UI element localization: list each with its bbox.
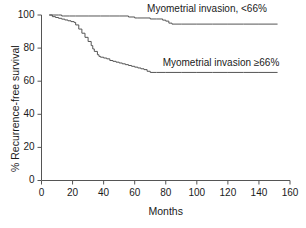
y-tick-label: 60 bbox=[23, 76, 34, 86]
x-tick-label: 20 bbox=[67, 188, 78, 198]
axis-lines bbox=[38, 15, 291, 185]
survival-curve-low-invasion bbox=[49, 15, 277, 24]
x-tick-label: 40 bbox=[98, 188, 109, 198]
y-tick-label: 80 bbox=[23, 43, 34, 53]
upper-curve-label: Myometrial invasion, <66% bbox=[147, 4, 267, 14]
y-tick-label: 40 bbox=[23, 109, 34, 119]
y-axis-ticks bbox=[38, 15, 42, 181]
y-tick-label: 0 bbox=[29, 175, 35, 185]
x-tick-label: 120 bbox=[220, 188, 237, 198]
kaplan-meier-figure: 020406080100 020406080100120140160 % Rec… bbox=[0, 0, 306, 228]
x-tick-label: 140 bbox=[251, 188, 268, 198]
y-tick-label: 20 bbox=[23, 142, 34, 152]
x-tick-label: 160 bbox=[282, 188, 299, 198]
y-tick-label: 100 bbox=[18, 10, 35, 20]
y-axis-title: % Recurrence-free survival bbox=[10, 45, 21, 172]
x-axis-title: Months bbox=[149, 206, 183, 217]
x-axis-ticks bbox=[42, 181, 291, 185]
lower-curve-label: Myometrial invasion ≥66% bbox=[163, 58, 280, 68]
x-tick-label: 100 bbox=[188, 188, 205, 198]
x-tick-label: 0 bbox=[39, 188, 45, 198]
x-tick-label: 80 bbox=[160, 188, 171, 198]
x-tick-label: 60 bbox=[129, 188, 140, 198]
